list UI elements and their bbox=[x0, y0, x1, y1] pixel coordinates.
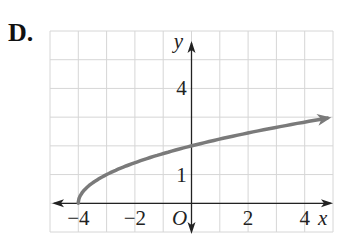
x-tick-label: O bbox=[172, 206, 187, 230]
x-axis bbox=[52, 199, 333, 207]
x-tick-label: 4 bbox=[299, 206, 310, 230]
x-tick-label: −2 bbox=[124, 206, 146, 230]
graph: −4−2O2414xy bbox=[0, 0, 349, 250]
x-axis-label: x bbox=[317, 206, 328, 230]
y-tick-label: 4 bbox=[176, 76, 187, 100]
y-axis-label: y bbox=[172, 29, 184, 53]
curve-line bbox=[78, 118, 327, 203]
y-axis bbox=[188, 41, 196, 234]
function-curve bbox=[78, 114, 331, 203]
x-tick-label: 2 bbox=[243, 206, 254, 230]
y-tick-label: 1 bbox=[176, 163, 187, 187]
x-tick-label: −4 bbox=[67, 206, 90, 230]
